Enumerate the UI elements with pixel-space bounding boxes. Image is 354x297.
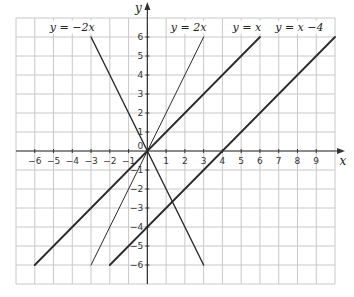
x-axis-label: x: [340, 154, 347, 168]
y-tick-label: −2: [130, 184, 143, 194]
y-tick-label: −6: [130, 260, 144, 270]
x-tick-label: −4: [66, 156, 80, 166]
x-tick-label: 2: [182, 156, 188, 166]
y-tick-label: −4: [130, 222, 144, 232]
line-equation-label: y = x −4: [274, 21, 323, 34]
x-tick-label: −6: [28, 156, 42, 166]
x-tick-label: −5: [47, 156, 60, 166]
y-tick-label: −3: [130, 203, 143, 213]
x-tick-label: 5: [238, 156, 244, 166]
x-tick-label: 9: [313, 156, 319, 166]
line-equation-label: y = x: [231, 21, 261, 34]
line-equation-label: y = 2x: [170, 21, 207, 34]
x-tick-label: −3: [84, 156, 97, 166]
x-tick-label: 4: [220, 156, 226, 166]
x-tick-label: 3: [201, 156, 207, 166]
y-tick-label: 2: [138, 108, 144, 118]
coordinate-graph: xy −6−5−4−3−2−1123456789−6−5−4−3−2−10123…: [0, 0, 354, 297]
line-labels: y = −2xy = 2xy = xy = x −4: [48, 21, 325, 34]
x-tick-label: 8: [295, 156, 301, 166]
y-tick-label: 3: [138, 89, 144, 99]
x-tick-label: 7: [276, 156, 282, 166]
y-axis-label: y: [134, 1, 142, 15]
x-tick-label: −2: [103, 156, 116, 166]
line-equation-label: y = −2x: [49, 21, 96, 34]
x-tick-label: 1: [163, 156, 169, 166]
y-tick-label: 5: [138, 51, 144, 61]
y-tick-label: 4: [138, 70, 144, 80]
y-tick-label: 6: [138, 32, 144, 42]
y-axis-arrow-icon: [144, 2, 150, 10]
x-tick-label: 6: [257, 156, 263, 166]
